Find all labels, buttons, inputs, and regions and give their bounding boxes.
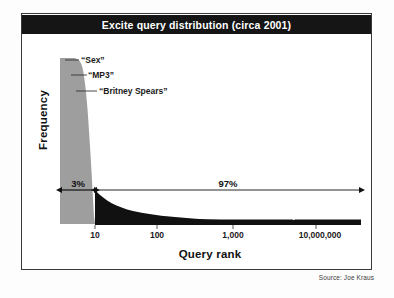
tail-baseline-band (95, 220, 361, 226)
head-share-label: 3% (71, 178, 85, 189)
x-axis-label: Query rank (60, 248, 360, 260)
x-tick-label-100: 100 (150, 230, 164, 240)
x-tick-label-10: 10 (90, 230, 99, 240)
x-axis-break-icon (293, 207, 298, 220)
chart-figure: Excite query distribution (circa 2001) (0, 0, 394, 298)
callout-label-britney: “Britney Spears” (99, 86, 168, 96)
y-axis-label: Frequency (37, 70, 49, 170)
head-region (60, 58, 95, 224)
x-tick-label-10m: 10,000,000 (299, 230, 342, 240)
tail-share-label: 97% (218, 178, 237, 189)
callout-label-mp3: “MP3” (88, 70, 114, 80)
callout-label-sex: “Sex” (81, 55, 105, 65)
x-tick-label-1000: 1,000 (222, 230, 243, 240)
source-credit: Source: Joe Kraus (319, 274, 374, 281)
